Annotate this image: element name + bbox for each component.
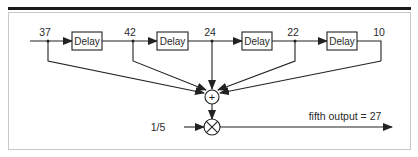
scale-factor-label: 1/5 [151,121,166,133]
delay-label: Delay [160,36,186,47]
tap-value-3: 24 [204,26,216,38]
delay-label: Delay [329,36,355,47]
wire-d4-end [357,41,381,61]
delay-label: Delay [74,36,100,47]
delay-block-1: Delay [72,32,102,50]
sum-node: + [205,90,219,104]
moving-average-filter-diagram: Delay Delay Delay Delay 37 42 24 22 10 +… [0,0,418,157]
tap-value-2: 42 [124,26,136,38]
delay-block-2: Delay [157,32,188,50]
output-label: fifth output = 27 [309,110,382,122]
plus-icon: + [209,91,215,103]
tap-wire-5 [220,61,381,93]
multiplier-node [204,119,220,135]
tap-value-5: 10 [373,26,385,38]
delay-block-3: Delay [242,32,272,50]
delay-block-4: Delay [327,32,357,50]
tap-value-4: 22 [287,26,299,38]
delay-label: Delay [244,36,270,47]
tap-value-1: 37 [39,26,51,38]
title-rule [8,7,411,10]
